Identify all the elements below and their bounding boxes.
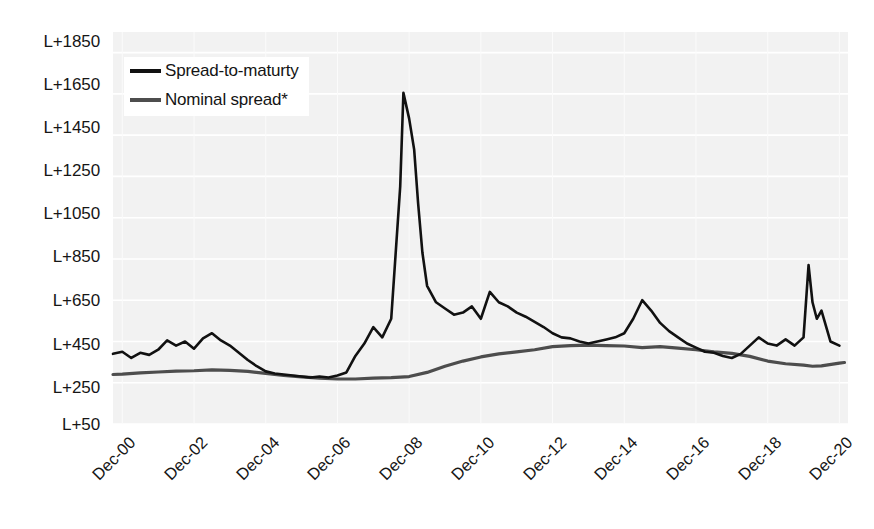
x-tick-label: Dec-14 [575, 433, 642, 500]
x-tick-label: Dec-18 [718, 433, 785, 500]
x-tick-label: Dec-10 [431, 433, 498, 500]
spread-history-line-chart: L+1850 L+1650 L+1450 L+1250 L+1050 L+850… [0, 0, 874, 529]
x-tick-label: Dec-16 [646, 433, 713, 500]
x-axis-tick-label-group: Dec-00Dec-02Dec-04Dec-06Dec-08Dec-10Dec-… [0, 0, 874, 529]
x-tick-label: Dec-00 [73, 433, 140, 500]
x-tick-label: Dec-06 [288, 433, 355, 500]
x-tick-label: Dec-20 [790, 433, 857, 500]
x-tick-label: Dec-08 [359, 433, 426, 500]
x-tick-label: Dec-12 [503, 433, 570, 500]
x-tick-label: Dec-04 [216, 433, 283, 500]
x-tick-label: Dec-02 [144, 433, 211, 500]
